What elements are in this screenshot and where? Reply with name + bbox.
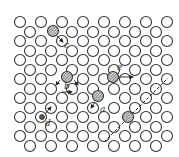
lattice-atom: [36, 74, 47, 85]
lattice-atom: [46, 141, 57, 152]
lattice-atom: [46, 65, 57, 76]
lattice-atom: [130, 141, 141, 152]
hatched-atom-c: [48, 26, 59, 37]
lattice-atom: [78, 36, 89, 47]
lattice-atom: [130, 65, 141, 76]
lattice-atom: [88, 122, 99, 133]
lattice-atom: [15, 17, 26, 28]
lattice-atom: [25, 141, 36, 152]
arrow-c: [57, 36, 63, 42]
lattice-atom: [15, 36, 26, 47]
lattice-atom: [46, 84, 57, 95]
lattice-atom: [151, 46, 162, 57]
lattice-atom: [67, 27, 78, 38]
lattice-atom: [162, 17, 173, 28]
label-a: a: [100, 104, 105, 114]
defect-d: d: [40, 107, 52, 128]
lattice-atom: [99, 55, 110, 66]
lattice-atom: [15, 55, 26, 66]
lattice-atom: [36, 131, 47, 142]
lattice-atom: [151, 84, 162, 95]
lattice-atom: [88, 65, 99, 76]
lattice-atom: [99, 17, 110, 28]
lattice-atom: [109, 141, 120, 152]
lattice-atom: [88, 141, 99, 152]
lattice-atom: [36, 36, 47, 47]
lattice-atom: [67, 103, 78, 114]
hatched-atom-e: [108, 72, 119, 83]
lattice-atom: [25, 122, 36, 133]
lattice-atom: [151, 27, 162, 38]
lattice-atom: [25, 65, 36, 76]
lattice-atom: [109, 122, 120, 133]
label-e: e: [117, 62, 122, 72]
lattice-atom: [141, 36, 152, 47]
crystal-lattice-diagram: c b e a d: [0, 0, 179, 157]
lattice-atom: [120, 17, 131, 28]
lattice-atom: [120, 36, 131, 47]
lattice-atom: [57, 17, 68, 28]
lattice-atom: [88, 103, 99, 114]
lattice-atom: [57, 93, 68, 104]
lattice-atom: [99, 131, 110, 142]
lattice-atom: [151, 141, 162, 152]
lattice-atom: [78, 74, 89, 85]
lattice-atom: [109, 84, 120, 95]
lattice-atom: [36, 17, 47, 28]
lattice-atom: [25, 27, 36, 38]
lattice-atom: [130, 27, 141, 38]
lattice-atom: [57, 112, 68, 123]
lattice-atom: [78, 93, 89, 104]
lattice-atom: [141, 93, 152, 104]
lattice-atom: [25, 46, 36, 57]
lattice-atom: [36, 55, 47, 66]
lattice-atom: [151, 122, 162, 133]
lattice-atom: [130, 46, 141, 57]
lattice-atom: [46, 46, 57, 57]
lattice-atom: [141, 55, 152, 66]
lattice-atom: [15, 131, 26, 142]
lattice-atom: [15, 93, 26, 104]
lattice-atom: [120, 131, 131, 142]
hatched-atom-a: [93, 91, 104, 102]
lattice-atom: [151, 65, 162, 76]
lattice-atom: [25, 84, 36, 95]
lattice-atom: [67, 122, 78, 133]
lattice-atom: [130, 122, 141, 133]
small-atom-d: [40, 115, 45, 120]
lattice-atom: [141, 131, 152, 142]
lattice-atom: [78, 131, 89, 142]
lattice-atom: [36, 93, 47, 104]
lattice-atom: [120, 74, 131, 85]
lattice-atom: [109, 46, 120, 57]
hatched-atom-dislocation: [123, 112, 134, 123]
label-d: d: [45, 118, 51, 128]
lattice-atom: [141, 112, 152, 123]
lattice-atom: [162, 36, 173, 47]
lattice-atom: [162, 131, 173, 142]
lattice-atom: [130, 84, 141, 95]
lattice-atom: [162, 55, 173, 66]
arrow-b-left: [56, 80, 60, 85]
lattice-atom: [57, 131, 68, 142]
lattice-atom: [109, 27, 120, 38]
label-c: c: [64, 40, 69, 50]
lattice-atom: [162, 93, 173, 104]
lattice-atom: [15, 74, 26, 85]
lattice-atom: [67, 141, 78, 152]
lattice-atom: [88, 27, 99, 38]
lattice-atom: [141, 17, 152, 28]
lattice-atom: [88, 46, 99, 57]
lattice-atom: [162, 112, 173, 123]
lattice-atom: [78, 112, 89, 123]
lattice-atom: [151, 103, 162, 114]
lattice-atom: [120, 93, 131, 104]
lattice-atom: [78, 55, 89, 66]
lattice-atom: [109, 103, 120, 114]
lattice-atom: [25, 103, 36, 114]
lattice-atom: [15, 112, 26, 123]
lattice-atom: [162, 74, 173, 85]
lattice-atom: [57, 55, 68, 66]
lattice-atoms: [15, 17, 173, 152]
label-b: b: [64, 81, 70, 91]
